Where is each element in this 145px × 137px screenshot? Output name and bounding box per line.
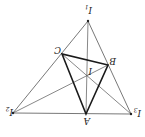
segment-I2-I3 bbox=[13, 113, 131, 114]
label-A: A bbox=[83, 116, 91, 126]
label-I2: I2 bbox=[5, 106, 14, 117]
svg-text:I: I bbox=[88, 66, 93, 76]
svg-text:B: B bbox=[109, 56, 117, 66]
geometry-diagram: I1 I2 I3 A B C I bbox=[0, 0, 145, 137]
segment-I1-I3 bbox=[88, 21, 131, 114]
label-C: C bbox=[54, 45, 61, 55]
svg-text:I2: I2 bbox=[5, 106, 14, 117]
triangle-ABC bbox=[62, 54, 108, 114]
svg-text:A: A bbox=[83, 116, 91, 126]
svg-text:I3: I3 bbox=[133, 107, 142, 118]
point-I3 bbox=[130, 113, 132, 115]
point-I1 bbox=[87, 20, 89, 22]
segment-I2-B bbox=[13, 65, 108, 113]
segment-I1-A bbox=[86, 21, 88, 114]
label-I3: I3 bbox=[133, 107, 142, 118]
label-I: I bbox=[88, 66, 93, 76]
label-I1: I1 bbox=[85, 4, 93, 15]
svg-text:C: C bbox=[54, 45, 61, 55]
svg-text:I1: I1 bbox=[85, 4, 93, 15]
label-B: B bbox=[109, 56, 117, 66]
